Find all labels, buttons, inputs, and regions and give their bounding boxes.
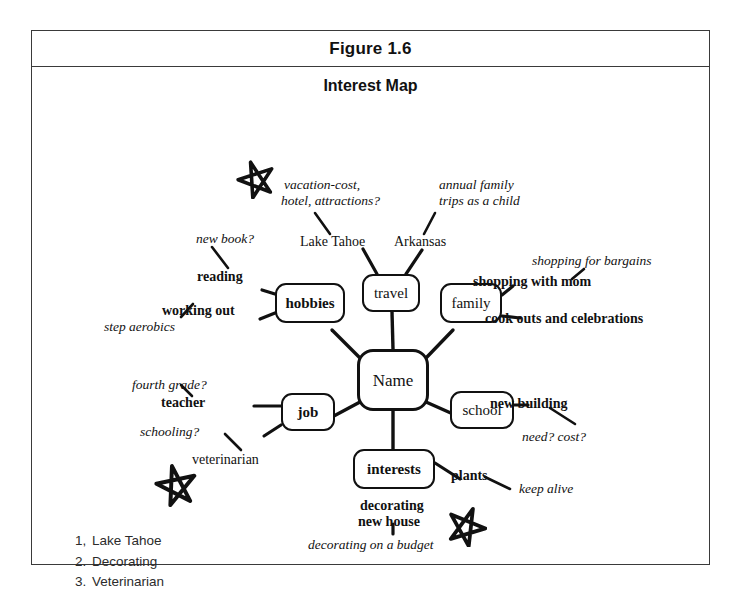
line-name-hobbies — [332, 330, 360, 358]
label-teacher: teacher — [161, 394, 205, 411]
label-working-out: working out — [162, 302, 235, 319]
legend-item: 3.Veterinarian — [75, 572, 164, 593]
line-name-travel — [392, 312, 393, 349]
legend-text: Lake Tahoe — [92, 533, 162, 548]
line-hobbies-reading — [262, 290, 275, 294]
node-label-hobbies: hobbies — [285, 296, 334, 311]
node-interests[interactable]: interests — [353, 449, 435, 489]
star-icon-left — [154, 463, 198, 507]
label-new-building: new building — [490, 395, 567, 412]
node-hobbies[interactable]: hobbies — [275, 283, 345, 323]
line-name-job — [332, 402, 360, 417]
legend-text: Decorating — [92, 554, 157, 569]
label-new-book: new book? — [196, 231, 254, 247]
label-decorating: decorating — [360, 497, 424, 514]
node-label-family: family — [451, 296, 490, 311]
line-plants-keep-alive — [485, 477, 510, 489]
label-annual-family: annual family — [439, 177, 514, 193]
line-job-schooling — [264, 425, 281, 436]
legend-number: 3. — [75, 572, 92, 593]
label-decorating-on-budget: decorating on a budget — [308, 537, 434, 553]
priority-legend: 1,Lake Tahoe 2.Decorating 3.Veterinarian — [75, 531, 164, 593]
label-keep-alive: keep alive — [519, 481, 573, 497]
star-icon-bottom — [445, 505, 487, 547]
node-label-job: job — [298, 405, 319, 420]
node-label-name: Name — [373, 372, 414, 389]
line-reading-new-book — [212, 247, 228, 268]
line-travel-arkansas — [406, 250, 422, 274]
map-title: Interest Map — [32, 77, 709, 95]
node-label-travel: travel — [374, 286, 408, 301]
label-veterinarian: veterinarian — [192, 451, 259, 468]
node-travel[interactable]: travel — [362, 274, 420, 312]
line-arkansas-annual-family — [424, 213, 435, 234]
figure-frame: Figure 1.6 Interest Map — [31, 30, 710, 565]
line-schooling-veterinarian — [225, 434, 241, 450]
legend-number: 2. — [75, 552, 92, 573]
legend-item: 1,Lake Tahoe — [75, 531, 164, 552]
label-need-cost: need? cost? — [522, 429, 586, 445]
label-schooling: schooling? — [140, 424, 199, 440]
label-plants: plants — [451, 467, 488, 484]
label-lake-tahoe: Lake Tahoe — [300, 233, 365, 250]
node-name[interactable]: Name — [357, 349, 429, 411]
star-icon-top — [236, 159, 276, 199]
label-trips-as-a-child: trips as a child — [439, 193, 520, 209]
legend-number: 1, — [75, 531, 92, 552]
node-label-interests: interests — [367, 462, 421, 477]
line-tahoe-vacation-cost — [315, 213, 330, 234]
legend-item: 2.Decorating — [75, 552, 164, 573]
label-arkansas: Arkansas — [394, 233, 446, 250]
label-shopping-for-bargains: shopping for bargains — [532, 253, 652, 269]
label-fourth-grade: fourth grade? — [132, 377, 207, 393]
line-name-school — [426, 402, 453, 414]
legend-text: Veterinarian — [92, 574, 164, 589]
figure-caption: Figure 1.6 — [329, 39, 411, 59]
label-new-house: new house — [358, 513, 420, 530]
node-job[interactable]: job — [281, 393, 335, 431]
label-shopping-with-mom: shopping with mom — [473, 273, 591, 290]
label-reading: reading — [197, 268, 243, 285]
label-vacation-cost: vacation-cost, — [284, 177, 360, 193]
figure-caption-bar: Figure 1.6 — [32, 31, 709, 67]
label-hotel-attractions: hotel, attractions? — [281, 193, 380, 209]
line-hobbies-working-out — [260, 313, 275, 319]
line-name-family — [426, 330, 453, 358]
label-step-aerobics: step aerobics — [104, 319, 175, 335]
label-cook-outs: cook outs and celebrations — [485, 310, 643, 327]
line-travel-lake-tahoe — [363, 249, 377, 274]
